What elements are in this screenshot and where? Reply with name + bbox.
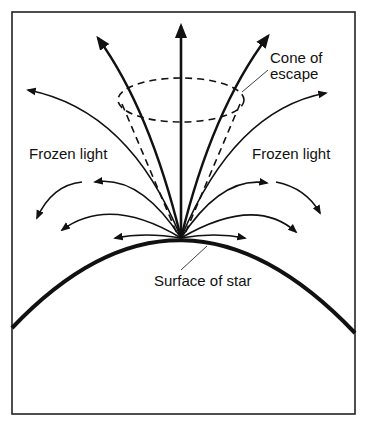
frozen-light-label-right: Frozen light [252, 145, 331, 162]
surface-leader-line [181, 246, 207, 270]
frozen-light-diagram: Cone of escape Frozen light Frozen light… [0, 0, 365, 423]
cone-leader-line [242, 70, 268, 92]
ray-left-wide [28, 90, 181, 238]
ray-left-low [62, 214, 181, 238]
cone-label-line2: escape [270, 65, 318, 82]
ray-left-flat [115, 235, 181, 238]
ray-left-detached [37, 182, 82, 218]
ray-right-flat [181, 235, 245, 238]
ray-right-detached [276, 182, 320, 213]
frozen-light-label-left: Frozen light [29, 145, 108, 162]
cone-label-line1: Cone of [270, 49, 323, 66]
ray-left-steep [98, 38, 181, 238]
ray-right-low [181, 215, 296, 238]
surface-label: Surface of star [154, 272, 252, 289]
